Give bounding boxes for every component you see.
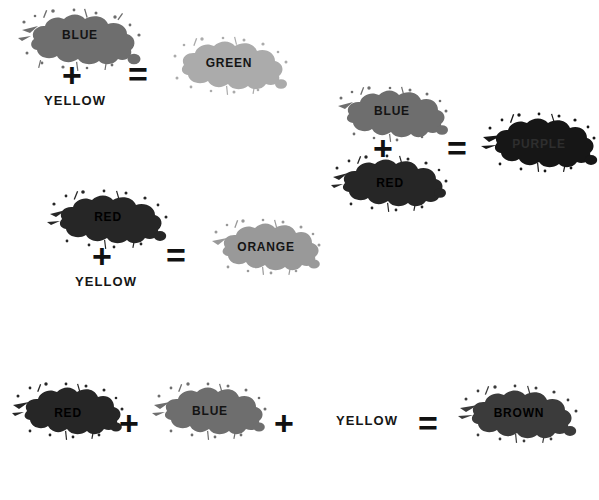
splatter-shape: [168, 36, 290, 94]
blob-body: [31, 15, 134, 65]
blob-body: [495, 119, 594, 168]
blob-droplet: [253, 422, 265, 431]
operator-equals-eq4: =: [418, 406, 438, 440]
blob-droplet: [564, 426, 576, 436]
color-mixing-chart: BLUE + YELLOW = GREEN: [0, 0, 599, 500]
blob-body: [472, 391, 572, 439]
operator-plus-eq3: +: [92, 239, 112, 273]
splatter-shape: [481, 113, 597, 173]
blob-body: [165, 388, 263, 435]
blob-droplet: [434, 188, 446, 198]
word-yellow-eq1: YELLOW: [44, 93, 106, 108]
blob-droplet: [585, 155, 597, 165]
splatter-shape: [152, 383, 268, 439]
operator-plus2-eq4: +: [274, 406, 294, 440]
blob-droplet: [154, 231, 166, 241]
operator-plus1-eq4: +: [119, 406, 139, 440]
blob-red-eq2: RED: [330, 155, 450, 211]
word-yellow-eq3: YELLOW: [75, 274, 137, 289]
splatter-shape: [210, 219, 322, 275]
blob-purple: PURPLE: [481, 113, 597, 173]
blob-body: [182, 42, 283, 90]
blob-body: [343, 160, 443, 207]
operator-equals-eq2: =: [447, 131, 467, 165]
blob-orange: ORANGE: [210, 219, 322, 275]
blob-red-eq4: RED: [12, 383, 124, 439]
blob-body: [223, 224, 319, 271]
operator-equals-eq1: =: [128, 57, 148, 91]
blob-brown: BROWN: [458, 385, 580, 443]
splatter-shape: [330, 155, 450, 211]
operator-equals-eq3: =: [166, 238, 186, 272]
blob-blue-eq4: BLUE: [152, 383, 268, 439]
blob-droplet: [308, 259, 320, 268]
splatter-shape: [12, 383, 124, 439]
word-yellow-eq4: YELLOW: [336, 413, 398, 428]
blob-body: [25, 388, 121, 435]
blob-green-eq1: GREEN: [168, 36, 290, 94]
blob-droplet: [275, 79, 287, 89]
operator-plus-eq1: +: [62, 58, 82, 92]
splatter-shape: [458, 385, 580, 443]
blob-body: [347, 91, 445, 138]
